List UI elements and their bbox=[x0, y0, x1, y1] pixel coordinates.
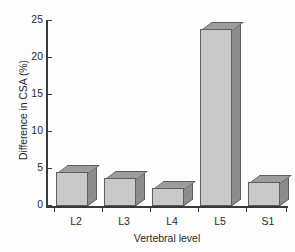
y-tick-label-5: 25 bbox=[21, 13, 43, 26]
x-tick-1 bbox=[102, 207, 103, 212]
bar-L2 bbox=[56, 172, 88, 206]
x-tick-label-S1: S1 bbox=[248, 215, 288, 227]
y-tick-0: 0 bbox=[47, 205, 52, 206]
y-tick-label-3: 15 bbox=[21, 87, 43, 100]
x-tick-4 bbox=[246, 207, 247, 212]
x-tick-label-L5: L5 bbox=[200, 215, 240, 227]
bar-L5 bbox=[200, 29, 232, 206]
y-tick-label-2: 10 bbox=[21, 124, 43, 137]
y-tick-2: 10 bbox=[47, 131, 52, 132]
y-tick-1: 5 bbox=[47, 168, 52, 169]
x-tick-3 bbox=[198, 207, 199, 212]
bar-S1 bbox=[248, 182, 280, 206]
y-axis-line bbox=[46, 20, 48, 206]
y-tick-label-4: 20 bbox=[21, 50, 43, 63]
x-tick-label-L2: L2 bbox=[56, 215, 96, 227]
bar-S1-front-face bbox=[248, 182, 280, 206]
y-tick-label-0: 0 bbox=[21, 198, 43, 211]
x-tick-0 bbox=[54, 207, 55, 212]
y-tick-4: 20 bbox=[47, 57, 52, 58]
bar-chart-figure: Difference in CSA (%) 0 5 10 15 20 25 bbox=[0, 0, 295, 252]
bar-L4 bbox=[152, 188, 184, 206]
y-tick-5: 25 bbox=[47, 20, 52, 21]
bar-L3 bbox=[104, 178, 136, 206]
x-axis-title: Vertebral level bbox=[46, 232, 288, 244]
x-axis-line bbox=[46, 206, 288, 208]
bar-L2-front-face bbox=[56, 172, 88, 206]
x-tick-label-L4: L4 bbox=[152, 215, 192, 227]
y-tick-3: 15 bbox=[47, 94, 52, 95]
x-tick-2 bbox=[150, 207, 151, 212]
bar-L4-front-face bbox=[152, 188, 184, 206]
x-tick-label-L3: L3 bbox=[104, 215, 144, 227]
bar-L5-front-face bbox=[200, 29, 232, 206]
bar-L3-front-face bbox=[104, 178, 136, 206]
y-tick-label-1: 5 bbox=[21, 161, 43, 174]
x-tick-5 bbox=[286, 207, 287, 212]
bar-L5-side-face bbox=[232, 22, 241, 206]
plot-area: 0 5 10 15 20 25 bbox=[46, 20, 288, 206]
